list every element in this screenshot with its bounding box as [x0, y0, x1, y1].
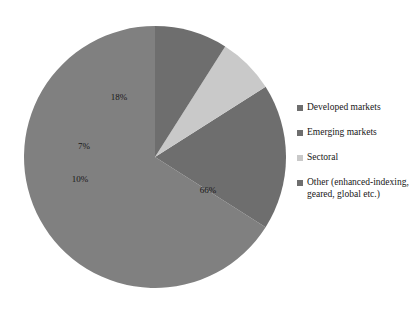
legend-item-label: Emerging markets — [307, 126, 377, 138]
pie-label-sectoral: 7% — [78, 141, 91, 151]
pie-plot-area: 66% 18% 7% 10% — [24, 26, 286, 288]
legend-item-sectoral[interactable]: Sectoral — [297, 151, 419, 163]
pie-label-emerging-markets: 18% — [111, 92, 128, 102]
legend-swatch-icon — [297, 130, 303, 136]
chart-legend: Developed markets Emerging markets Secto… — [297, 101, 419, 200]
pie-chart: 66% 18% 7% 10% Developed markets Emergin… — [0, 0, 419, 313]
pie-label-developed-markets: 66% — [200, 185, 217, 195]
pie-label-other: 10% — [72, 174, 89, 184]
legend-item-other[interactable]: Other (enhanced-indexing, geared, global… — [297, 176, 419, 200]
pie-slices — [24, 26, 286, 288]
legend-swatch-icon — [297, 180, 303, 186]
legend-item-label: Sectoral — [307, 151, 338, 163]
legend-item-label: Other (enhanced-indexing, geared, global… — [307, 176, 409, 200]
pie-svg: 66% 18% 7% 10% — [24, 26, 286, 288]
legend-item-developed-markets[interactable]: Developed markets — [297, 101, 419, 113]
legend-swatch-icon — [297, 155, 303, 161]
legend-item-emerging-markets[interactable]: Emerging markets — [297, 126, 419, 138]
legend-swatch-icon — [297, 105, 303, 111]
legend-item-label: Developed markets — [307, 101, 381, 113]
